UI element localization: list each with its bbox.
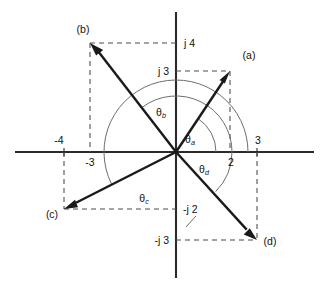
- angle-label-theta-a: θa: [185, 133, 195, 147]
- arc-theta-a: [198, 119, 216, 152]
- phasor-diagram-figure: -4 -3 2 3 j 4 j 3 -j 2 -j 3 (a) (b) (c) …: [0, 0, 326, 290]
- tick-label-imag-j3: j 3: [157, 65, 169, 77]
- vector-label-d: (d): [264, 235, 277, 247]
- vector-label-c: (c): [46, 208, 58, 220]
- complex-plane-svg: -4 -3 2 3 j 4 j 3 -j 2 -j 3 (a) (b) (c) …: [0, 0, 326, 290]
- vector-d: [176, 152, 257, 240]
- vector-label-a: (a): [243, 49, 256, 61]
- vector-a-arrowhead: [220, 71, 230, 84]
- angle-label-theta-c: θc: [139, 192, 149, 206]
- vector-label-b: (b): [77, 23, 90, 35]
- vector-c-arrowhead: [64, 200, 78, 209]
- tick-label-real-2: 2: [228, 156, 234, 168]
- arc-theta-c-direction-tick: [186, 216, 196, 227]
- angle-label-theta-b: θb: [156, 106, 166, 120]
- tick-label-imag--j3: -j 3: [154, 234, 169, 246]
- tick-label-imag--j2: -j 2: [183, 203, 198, 215]
- tick-label-real-3: 3: [255, 134, 261, 146]
- vector-c: [64, 152, 176, 209]
- tick-label-real--4: -4: [54, 134, 63, 146]
- tick-label-real--3: -3: [85, 156, 94, 168]
- angle-label-theta-d: θd: [199, 163, 210, 177]
- tick-label-imag-j4: j 4: [183, 37, 195, 49]
